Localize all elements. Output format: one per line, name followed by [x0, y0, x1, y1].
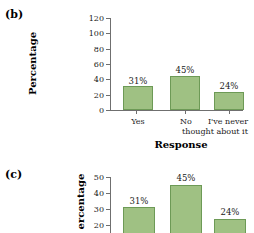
bar-no-c	[170, 185, 202, 233]
y-tick-label-b-60: 60	[76, 60, 104, 69]
bar-value-yes-c: 31%	[112, 196, 166, 206]
y-tick-b-60	[106, 64, 110, 65]
bar-value-yes-b: 31%	[113, 76, 163, 86]
bar-never-b	[214, 92, 244, 110]
y-tick-label-c-30: 30	[80, 205, 104, 214]
y-tick-label-b-80: 80	[76, 45, 104, 54]
x-tick-b-2	[185, 110, 186, 114]
y-tick-b-0	[106, 110, 110, 111]
y-axis-line-b	[110, 18, 111, 110]
bar-value-no-b: 45%	[160, 65, 210, 75]
y-tick-label-c-40: 40	[80, 189, 104, 198]
y-tick-label-c-20: 20	[80, 221, 104, 230]
x-axis-title-b: Response	[126, 139, 236, 150]
y-tick-label-b-100: 100	[76, 29, 104, 38]
y-tick-c-20	[106, 225, 110, 226]
bar-no-b	[170, 76, 200, 111]
y-tick-c-40	[106, 193, 110, 194]
x-category-label-never-b-line1: I've never	[202, 117, 254, 127]
y-tick-c-30	[106, 209, 110, 210]
bar-value-never-c: 24%	[203, 207, 254, 217]
bar-never-c	[214, 219, 246, 233]
bar-value-never-b: 24%	[204, 81, 254, 91]
x-axis-line-b	[110, 110, 243, 111]
bar-chart-panel-c: ercentage 50 40 30 20 31% 45% 24%	[0, 160, 254, 233]
y-tick-b-40	[106, 79, 110, 80]
x-tick-b-1	[136, 110, 137, 114]
bar-value-no-c: 45%	[159, 173, 213, 183]
y-tick-b-20	[106, 95, 110, 96]
x-category-label-never-b-line2: thought about it	[176, 127, 254, 137]
y-tick-b-100	[106, 33, 110, 34]
y-tick-b-80	[106, 49, 110, 50]
y-tick-label-b-20: 20	[76, 91, 104, 100]
x-tick-b-3	[229, 110, 230, 114]
y-tick-c-50	[106, 177, 110, 178]
y-tick-label-b-120: 120	[76, 14, 104, 23]
y-tick-label-b-40: 40	[76, 75, 104, 84]
x-category-label-yes-b: Yes	[113, 117, 163, 127]
y-axis-line-c	[110, 177, 111, 233]
y-tick-b-120	[106, 18, 110, 19]
bar-chart-panel-b: Percentage 120 100 80 60 40 20 0 31% 45%…	[0, 0, 254, 155]
bar-yes-c	[123, 207, 155, 233]
y-axis-title-b: Percentage	[27, 28, 38, 100]
bar-yes-b	[123, 86, 153, 110]
y-tick-label-c-50: 50	[80, 173, 104, 182]
y-tick-label-b-0: 0	[76, 106, 104, 115]
